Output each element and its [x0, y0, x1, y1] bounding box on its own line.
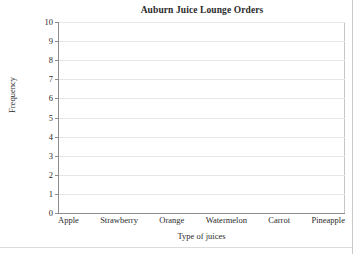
gridline [59, 98, 345, 99]
y-axis-tick [55, 79, 59, 80]
chart-page: Auburn Juice Lounge Orders Frequency 109… [0, 0, 362, 254]
gridline [59, 41, 345, 42]
y-axis-tick [55, 194, 59, 195]
y-axis-tick [55, 60, 59, 61]
page-edge-right [352, 0, 353, 254]
x-axis-category-label: Carrot [268, 216, 290, 225]
gridline [59, 175, 345, 176]
gridline [59, 194, 345, 195]
x-axis-category-label: Pineapple [311, 216, 345, 225]
y-axis-tick [55, 22, 59, 23]
y-axis-tick-label: 6 [29, 94, 53, 103]
gridline [59, 118, 345, 119]
y-axis-tick [55, 175, 59, 176]
chart-title: Auburn Juice Lounge Orders [58, 5, 346, 15]
y-axis-tick [55, 41, 59, 42]
y-axis-tick-label: 0 [29, 209, 53, 218]
x-axis-title: Type of juices [58, 231, 345, 241]
y-axis-tick [55, 213, 59, 214]
gridline [59, 156, 345, 157]
y-axis-tick [55, 156, 59, 157]
gridline [59, 60, 345, 61]
x-axis-category-label: Orange [159, 216, 184, 225]
page-edge-bottom [0, 247, 352, 248]
y-axis-tick-label: 5 [29, 114, 53, 123]
y-axis-tick [55, 118, 59, 119]
x-axis-labels: AppleStrawberryOrangeWatermelonCarrotPin… [58, 216, 345, 230]
y-axis-tick-label: 2 [29, 171, 53, 180]
x-axis-category-label: Apple [58, 216, 79, 225]
y-axis-tick-label: 1 [29, 190, 53, 199]
y-axis-tick-label: 9 [29, 37, 53, 46]
y-axis-tick-label: 10 [29, 18, 53, 27]
x-axis-category-label: Watermelon [206, 216, 247, 225]
gridline [59, 79, 345, 80]
y-axis-tick-label: 4 [29, 133, 53, 142]
y-axis-tick [55, 98, 59, 99]
gridline [59, 137, 345, 138]
plot-area: 109876543210 [58, 22, 345, 214]
y-axis-title: Frequency [7, 60, 17, 130]
gridline [59, 22, 345, 23]
x-axis-category-label: Strawberry [100, 216, 138, 225]
y-axis-tick-label: 3 [29, 152, 53, 161]
y-axis-tick [55, 137, 59, 138]
y-axis-tick-label: 8 [29, 56, 53, 65]
y-axis-tick-label: 7 [29, 75, 53, 84]
